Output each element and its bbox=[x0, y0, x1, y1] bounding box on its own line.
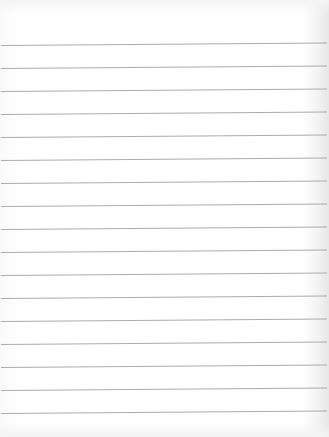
ruled-line bbox=[1, 364, 327, 368]
ruled-line bbox=[1, 111, 327, 115]
ruled-line bbox=[1, 157, 327, 161]
ruled-line bbox=[1, 410, 327, 414]
bottom-edge-shading bbox=[0, 423, 329, 437]
ruled-line bbox=[1, 226, 327, 230]
ruled-line bbox=[1, 318, 327, 322]
ruled-line bbox=[1, 42, 327, 46]
ruled-line bbox=[1, 203, 327, 207]
ruled-line bbox=[1, 272, 327, 276]
ruled-line bbox=[1, 180, 327, 184]
lined-paper-page bbox=[0, 0, 329, 437]
ruled-line bbox=[1, 295, 327, 299]
top-edge-shading bbox=[0, 0, 329, 14]
ruled-line bbox=[1, 65, 327, 69]
ruled-line bbox=[1, 387, 327, 391]
ruled-line bbox=[1, 88, 327, 92]
ruled-line bbox=[1, 249, 327, 253]
ruled-line bbox=[1, 134, 327, 138]
ruled-line bbox=[1, 341, 327, 345]
